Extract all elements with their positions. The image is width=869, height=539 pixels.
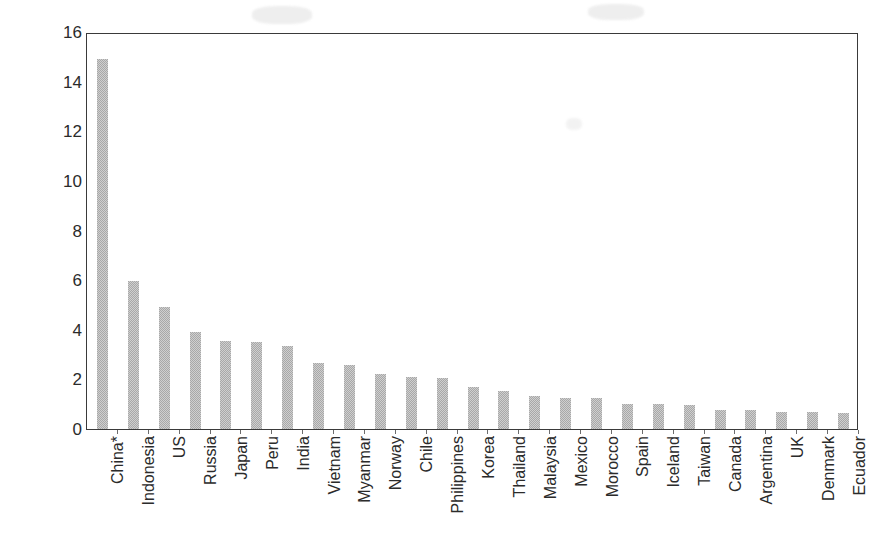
bar	[745, 410, 756, 429]
x-axis-tick-label: Taiwan	[696, 436, 714, 536]
x-axis-tick-mark	[673, 430, 674, 434]
x-axis-tick-label: Myanmar	[356, 436, 374, 536]
x-axis-tick-label: Norway	[387, 436, 405, 536]
x-axis-tick-label: Argentina	[758, 436, 776, 536]
bar	[529, 396, 540, 429]
x-axis-tick-mark	[210, 430, 211, 434]
y-axis-tick-label: 4	[30, 322, 82, 339]
x-axis-tick-label: Russia	[202, 436, 220, 536]
x-axis-tick-mark	[271, 430, 272, 434]
y-axis-tick-label: 0	[30, 421, 82, 438]
bar	[220, 341, 231, 429]
bar	[282, 346, 293, 429]
x-axis-tick-label: India	[295, 436, 313, 536]
x-axis-tick-mark	[734, 430, 735, 434]
y-axis-tick-label: 16	[30, 24, 82, 41]
x-axis-tick-mark	[117, 430, 118, 434]
x-axis-tick-mark	[642, 430, 643, 434]
x-axis-tick-mark	[395, 430, 396, 434]
scan-artifact	[252, 6, 312, 24]
bar	[776, 412, 787, 429]
x-axis-tick-mark	[487, 430, 488, 434]
x-axis-tick-label: UK	[789, 436, 807, 536]
x-axis-tick-mark	[148, 430, 149, 434]
x-axis-tick-label: Iceland	[665, 436, 683, 536]
bar	[560, 398, 571, 429]
x-axis-tick-mark	[457, 430, 458, 434]
bar	[498, 391, 509, 429]
y-axis-tick-label: 2	[30, 371, 82, 388]
bar	[251, 342, 262, 429]
x-axis-tick-mark	[426, 430, 427, 434]
x-axis-tick-label: Korea	[480, 436, 498, 536]
x-axis-tick-mark	[765, 430, 766, 434]
bar	[807, 412, 818, 429]
y-axis-tick-labels: 0246810121416	[20, 0, 82, 539]
x-axis-tick-label: Philippines	[449, 436, 467, 536]
bar	[591, 398, 602, 429]
scan-artifact	[588, 4, 644, 20]
x-axis-tick-mark	[580, 430, 581, 434]
bar	[653, 404, 664, 429]
x-axis-tick-mark	[549, 430, 550, 434]
x-axis-tick-mark	[858, 430, 859, 434]
y-axis-tick-label: 14	[30, 74, 82, 91]
bar	[838, 413, 849, 429]
plot-area	[86, 33, 858, 430]
bar	[684, 405, 695, 429]
x-axis-tick-label: Indonesia	[140, 436, 158, 536]
bar	[190, 332, 201, 429]
x-axis-tick-label: Japan	[233, 436, 251, 536]
bar	[437, 378, 448, 429]
bar	[622, 404, 633, 429]
y-axis-tick-label: 8	[30, 223, 82, 240]
bar	[344, 365, 355, 430]
x-axis-tick-label: US	[171, 436, 189, 536]
x-axis-tick-mark	[611, 430, 612, 434]
x-axis-tick-mark	[704, 430, 705, 434]
y-axis-tick-label: 10	[30, 173, 82, 190]
bar	[128, 281, 139, 429]
x-axis-tick-marks	[86, 430, 858, 435]
bar	[406, 377, 417, 429]
bar	[468, 387, 479, 429]
x-axis-tick-labels: China*IndonesiaUSRussiaJapanPeruIndiaVie…	[86, 436, 858, 539]
y-axis-tick-label: 6	[30, 272, 82, 289]
x-axis-tick-label: Vietnam	[326, 436, 344, 536]
x-axis-tick-mark	[518, 430, 519, 434]
x-axis-tick-label: Chile	[418, 436, 436, 536]
x-axis-tick-label: Ecuador	[851, 436, 869, 536]
bars-layer	[87, 34, 857, 429]
bar	[715, 410, 726, 429]
x-axis-tick-label: Spain	[634, 436, 652, 536]
x-axis-tick-label: Mexico	[573, 436, 591, 536]
x-axis-tick-label: Malaysia	[542, 436, 560, 536]
x-axis-tick-mark	[796, 430, 797, 434]
x-axis-tick-label: Morocco	[604, 436, 622, 536]
x-axis-tick-mark	[179, 430, 180, 434]
y-axis-tick-label: 12	[30, 123, 82, 140]
x-axis-tick-mark	[364, 430, 365, 434]
x-axis-tick-label: Thailand	[511, 436, 529, 536]
bar	[313, 363, 324, 429]
x-axis-tick-mark	[240, 430, 241, 434]
x-axis-tick-label: Denmark	[820, 436, 838, 536]
bar	[97, 59, 108, 429]
x-axis-tick-label: Canada	[727, 436, 745, 536]
bar	[159, 307, 170, 429]
x-axis-tick-label: Peru	[264, 436, 282, 536]
x-axis-tick-label: China*	[109, 436, 127, 536]
x-axis-tick-mark	[302, 430, 303, 434]
x-axis-tick-mark	[827, 430, 828, 434]
bar	[375, 374, 386, 429]
x-axis-tick-mark	[333, 430, 334, 434]
